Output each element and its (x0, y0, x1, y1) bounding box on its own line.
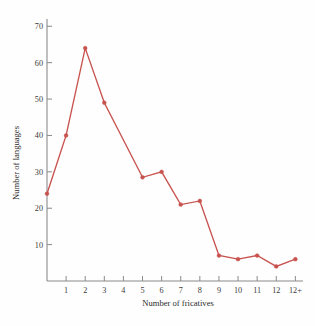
x-tick-label: 5 (140, 286, 144, 295)
x-tick-label: 10 (234, 286, 242, 295)
y-tick-label: 60 (35, 59, 43, 68)
x-tick-label: 2 (83, 286, 87, 295)
y-tick-label: 50 (35, 95, 43, 104)
x-tick-label: 4 (121, 286, 125, 295)
chart-figure: 10203040506070 12345678910111212+ Number… (0, 0, 315, 326)
x-tick-label: 8 (198, 286, 202, 295)
line-chart: 10203040506070 12345678910111212+ Number… (0, 0, 315, 326)
x-tick-label: 12+ (289, 286, 302, 295)
data-point (255, 254, 259, 258)
data-point (64, 134, 68, 138)
x-tick-label: 7 (179, 286, 183, 295)
x-tick-label: 9 (217, 286, 221, 295)
y-tick-label: 20 (35, 204, 43, 213)
x-tick-label: 11 (253, 286, 261, 295)
data-point (102, 101, 106, 105)
y-axis-ticks: 10203040506070 (35, 22, 52, 249)
data-point (217, 254, 221, 258)
x-tick-label: 3 (102, 286, 106, 295)
y-tick-label: 30 (35, 168, 43, 177)
x-tick-label: 6 (160, 286, 164, 295)
data-point (45, 192, 49, 196)
data-series (45, 46, 297, 268)
data-point (179, 203, 183, 207)
data-point (141, 175, 145, 179)
data-point (293, 257, 297, 261)
series-markers (45, 46, 297, 268)
data-point (83, 46, 87, 50)
x-tick-label: 12 (272, 286, 280, 295)
x-tick-label: 1 (64, 286, 68, 295)
y-axis-title: Number of languages (11, 125, 21, 200)
x-axis-ticks: 12345678910111212+ (64, 276, 302, 295)
data-point (160, 170, 164, 174)
y-tick-label: 10 (35, 241, 43, 250)
data-point (236, 257, 240, 261)
y-tick-label: 70 (35, 22, 43, 31)
x-axis-title: Number of fricatives (142, 298, 214, 308)
data-point (198, 199, 202, 203)
data-point (274, 265, 278, 269)
chart-axes (47, 19, 303, 281)
series-line-languages (47, 48, 295, 266)
y-tick-label: 40 (35, 131, 43, 140)
